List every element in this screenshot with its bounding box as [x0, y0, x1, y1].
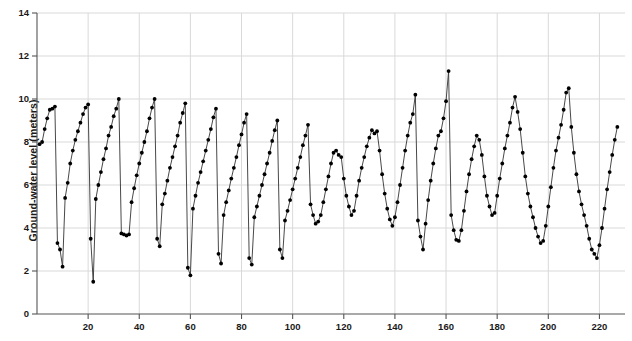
svg-text:8: 8	[24, 136, 29, 147]
svg-text:160: 160	[438, 321, 454, 332]
svg-text:6: 6	[24, 179, 29, 190]
svg-text:80: 80	[236, 321, 247, 332]
svg-text:4: 4	[24, 222, 30, 233]
svg-text:180: 180	[489, 321, 505, 332]
svg-text:120: 120	[336, 321, 352, 332]
chart-plot-svg: 0246810121420406080100120140160180200220	[0, 0, 632, 341]
svg-text:60: 60	[185, 321, 196, 332]
svg-text:220: 220	[592, 321, 608, 332]
svg-text:12: 12	[18, 50, 29, 61]
data-point-markers	[38, 69, 620, 284]
axis-ticks	[32, 13, 599, 319]
svg-text:2: 2	[24, 265, 29, 276]
svg-text:0: 0	[24, 308, 29, 319]
svg-text:20: 20	[83, 321, 94, 332]
svg-text:100: 100	[285, 321, 301, 332]
groundwater-level-chart: Ground-water level (meters) 024681012142…	[0, 0, 632, 341]
svg-text:200: 200	[540, 321, 556, 332]
svg-text:14: 14	[18, 7, 29, 18]
svg-text:40: 40	[134, 321, 145, 332]
svg-text:10: 10	[18, 93, 29, 104]
svg-text:140: 140	[387, 321, 403, 332]
